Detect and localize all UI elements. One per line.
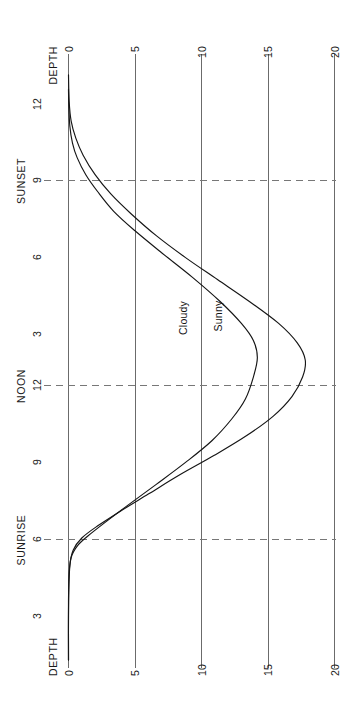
event-label-sunset: SUNSET bbox=[15, 158, 27, 204]
top-tick-label-20: 20 bbox=[329, 46, 341, 58]
bottom-tick-label-20: 20 bbox=[329, 664, 341, 676]
time-tick-label-3: 3 bbox=[31, 613, 43, 619]
series-group bbox=[68, 75, 305, 660]
top-tick-label-5: 5 bbox=[129, 46, 141, 52]
time-tick-label-15: 3 bbox=[31, 331, 43, 337]
top-depth-axis: DEPTH 0 5 10 15 20 bbox=[47, 46, 341, 85]
bottom-axis-title: DEPTH bbox=[47, 637, 59, 676]
depth-gridlines bbox=[69, 54, 335, 668]
series-labels: Cloudy Sunny bbox=[177, 300, 224, 335]
bottom-tick-label-0: 0 bbox=[63, 670, 75, 676]
top-tick-label-15: 15 bbox=[262, 46, 274, 58]
chart-canvas: DEPTH 0 5 10 15 20 DEPTH 0 5 10 15 20 12… bbox=[0, 0, 364, 721]
top-tick-label-10: 10 bbox=[196, 46, 208, 58]
time-tick-label-6: 6 bbox=[31, 536, 43, 542]
top-axis-title: DEPTH bbox=[47, 46, 59, 85]
event-labels: SUNSET NOON SUNRISE bbox=[15, 158, 27, 566]
time-tick-label-12: 12 bbox=[31, 379, 43, 391]
event-label-sunrise: SUNRISE bbox=[15, 515, 27, 566]
time-tick-label-21: 9 bbox=[31, 177, 43, 183]
series-line-cloudy bbox=[68, 89, 257, 660]
bottom-tick-label-15: 15 bbox=[262, 664, 274, 676]
series-label-sunny: Sunny bbox=[212, 300, 224, 331]
bottom-tick-label-5: 5 bbox=[129, 670, 141, 676]
series-line-sunny bbox=[68, 75, 305, 660]
series-label-cloudy: Cloudy bbox=[177, 301, 189, 335]
depth-vs-time-chart: DEPTH 0 5 10 15 20 DEPTH 0 5 10 15 20 12… bbox=[0, 0, 364, 721]
time-tick-label-18: 6 bbox=[31, 254, 43, 260]
time-axis-ticks: 12 9 6 3 12 9 6 3 bbox=[31, 98, 43, 619]
time-tick-label-9: 9 bbox=[31, 459, 43, 465]
bottom-tick-label-10: 10 bbox=[196, 664, 208, 676]
time-tick-label-24: 12 bbox=[31, 98, 43, 110]
event-label-noon: NOON bbox=[15, 369, 27, 403]
bottom-depth-axis: DEPTH 0 5 10 15 20 bbox=[47, 637, 341, 676]
top-tick-label-0: 0 bbox=[63, 46, 75, 52]
event-lines bbox=[44, 181, 336, 540]
